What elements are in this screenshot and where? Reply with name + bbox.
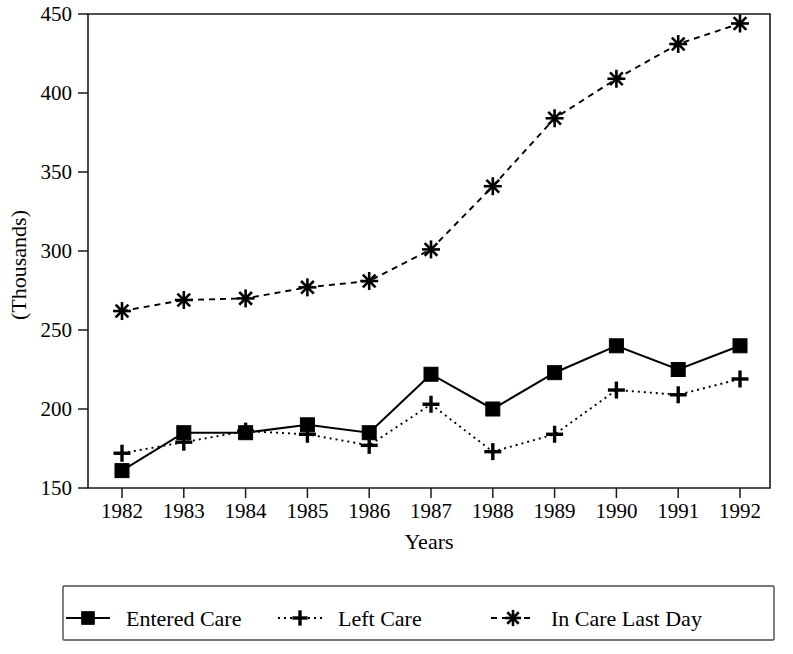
x-tick-label: 1982 [101, 499, 143, 523]
y-axis-ticks [78, 14, 88, 488]
marker-filled-square [115, 464, 129, 478]
x-tick-label: 1987 [410, 499, 452, 523]
series-line [122, 24, 740, 312]
x-axis-tick-labels: 1982198319841985198619871988198919901991… [101, 499, 761, 523]
x-tick-label: 1986 [348, 499, 390, 523]
x-tick-label: 1988 [472, 499, 514, 523]
x-tick-label: 1989 [534, 499, 576, 523]
y-tick-label: 200 [41, 397, 73, 421]
x-tick-label: 1985 [286, 499, 328, 523]
y-tick-label: 300 [41, 239, 73, 263]
chart-canvas: 150200250300350400450 198219831984198519… [0, 0, 793, 654]
y-axis-title: (Thousands) [6, 210, 31, 320]
legend-item-in-care-last-day[interactable]: In Care Last Day [491, 606, 702, 631]
x-tick-label: 1984 [225, 499, 268, 523]
x-tick-label: 1983 [163, 499, 205, 523]
line-chart: 150200250300350400450 198219831984198519… [0, 0, 793, 654]
legend-item-entered-care[interactable]: Entered Care [66, 606, 241, 631]
y-tick-label: 400 [41, 81, 73, 105]
legend-items: Entered CareLeft CareIn Care Last Day [66, 606, 702, 631]
series-line [122, 379, 740, 453]
legend-item-left-care[interactable]: Left Care [278, 606, 422, 631]
x-axis-title: Years [404, 529, 453, 554]
marker-filled-square [548, 366, 562, 380]
x-tick-label: 1990 [595, 499, 637, 523]
marker-filled-square [609, 339, 623, 353]
series-layer [113, 14, 749, 477]
marker-filled-square [671, 363, 685, 377]
y-tick-label: 450 [41, 2, 73, 26]
x-tick-label: 1991 [657, 499, 699, 523]
y-tick-label: 150 [41, 476, 73, 500]
y-tick-label: 250 [41, 318, 73, 342]
legend-label: In Care Last Day [551, 606, 702, 631]
marker-filled-square [486, 402, 500, 416]
marker-filled-square [82, 612, 95, 625]
marker-filled-square [424, 367, 438, 381]
legend-label: Left Care [338, 606, 422, 631]
x-axis-ticks [122, 488, 740, 498]
legend-label: Entered Care [126, 606, 241, 631]
marker-filled-square [733, 339, 747, 353]
y-axis-tick-labels: 150200250300350400450 [41, 2, 73, 500]
y-tick-label: 350 [41, 160, 73, 184]
series-in-care-last-day [113, 14, 749, 320]
x-tick-label: 1992 [719, 499, 761, 523]
series-left-care [114, 370, 749, 461]
